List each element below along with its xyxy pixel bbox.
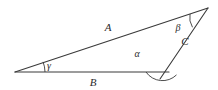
angle-beta-label: β bbox=[175, 22, 181, 33]
angle-gamma-arc bbox=[43, 62, 45, 72]
side-a-line bbox=[15, 8, 208, 72]
side-c-label: C bbox=[181, 35, 189, 47]
triangle-diagram: A B C α β γ bbox=[0, 0, 218, 90]
angle-beta-arc bbox=[190, 14, 193, 27]
angle-alpha-label: α bbox=[134, 48, 140, 59]
angle-gamma-label: γ bbox=[47, 60, 52, 71]
geometry-figure: A B C α β γ bbox=[0, 0, 218, 90]
side-b-label: B bbox=[90, 76, 97, 88]
side-a-label: A bbox=[104, 21, 112, 33]
